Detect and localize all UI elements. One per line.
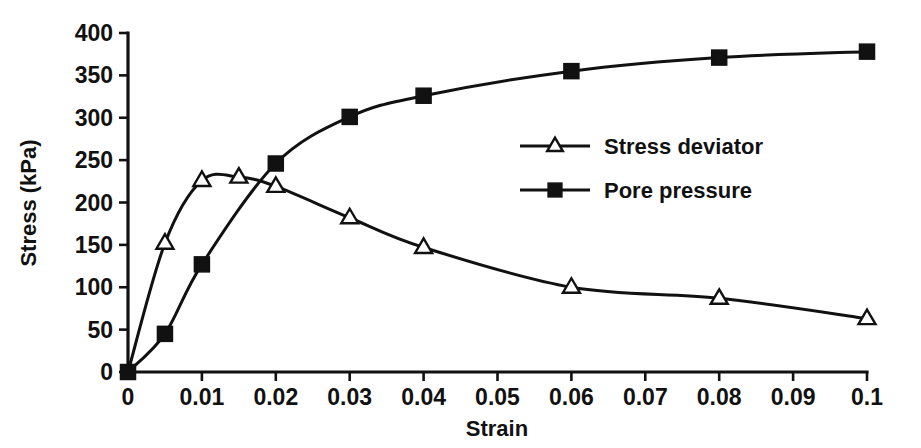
marker-filled-square: [342, 109, 357, 124]
marker-filled-square: [268, 156, 283, 171]
chart-background: [0, 0, 921, 448]
marker-filled-square: [860, 44, 875, 59]
x-tick-label: 0.05: [475, 384, 520, 410]
y-tick-label: 350: [75, 62, 113, 88]
chart-page: 050100150200250300350400 00.010.020.030.…: [0, 0, 921, 448]
x-tick-label: 0.04: [401, 384, 446, 410]
y-tick-label: 100: [75, 274, 113, 300]
y-tick-label: 400: [75, 20, 113, 46]
x-tick-label: 0.08: [697, 384, 742, 410]
x-tick-label: 0.02: [253, 384, 298, 410]
y-axis-title: Stress (kPa): [16, 139, 41, 266]
marker-filled-square: [121, 365, 136, 380]
marker-filled-square: [157, 326, 172, 341]
marker-filled-square: [564, 64, 579, 79]
x-tick-label: 0.06: [549, 384, 594, 410]
x-tick-label: 0.1: [851, 384, 883, 410]
x-axis-title: Strain: [466, 416, 528, 441]
marker-filled-square: [416, 88, 431, 103]
marker-filled-square: [548, 183, 562, 197]
y-tick-label: 200: [75, 190, 113, 216]
marker-filled-square: [712, 50, 727, 65]
x-tick-label: 0.01: [180, 384, 225, 410]
y-tick-label: 150: [75, 232, 113, 258]
stress-strain-chart: 050100150200250300350400 00.010.020.030.…: [0, 0, 921, 448]
x-tick-label: 0.03: [327, 384, 372, 410]
x-tick-label: 0.07: [623, 384, 668, 410]
y-tick-label: 300: [75, 105, 113, 131]
y-tick-label: 0: [100, 359, 113, 385]
y-tick-label: 250: [75, 147, 113, 173]
marker-filled-square: [194, 257, 209, 272]
x-tick-label: 0: [122, 384, 135, 410]
x-tick-label: 0.09: [771, 384, 816, 410]
legend-label: Stress deviator: [604, 134, 763, 159]
legend-label: Pore pressure: [604, 178, 752, 203]
y-tick-label: 50: [87, 317, 113, 343]
